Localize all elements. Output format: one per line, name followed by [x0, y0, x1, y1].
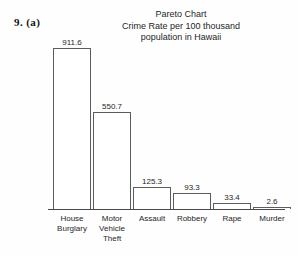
- chart-page: 9. (a) Pareto Chart Crime Rate per 100 t…: [0, 0, 298, 256]
- category-label-line: Vehicle: [88, 224, 136, 234]
- bar-house-burglary: [53, 48, 91, 209]
- pareto-chart-plot: 911.6550.7125.393.333.42.6 HouseBurglary…: [0, 0, 298, 256]
- category-label-line: Murder: [248, 214, 296, 224]
- x-axis-line: [48, 209, 285, 210]
- category-label-line: Theft: [88, 234, 136, 244]
- bar-value-motor-vehicle-theft: 550.7: [87, 102, 137, 111]
- bar-robbery: [173, 193, 211, 209]
- bar-value-robbery: 93.3: [167, 183, 217, 192]
- bar-assault: [133, 187, 171, 209]
- bar-value-house-burglary: 911.6: [47, 38, 97, 47]
- bar-rape: [213, 203, 251, 209]
- bar-motor-vehicle-theft: [93, 112, 131, 209]
- bar-murder: [253, 207, 291, 209]
- category-label-murder: Murder: [248, 214, 296, 224]
- bar-value-murder: 2.6: [247, 197, 297, 206]
